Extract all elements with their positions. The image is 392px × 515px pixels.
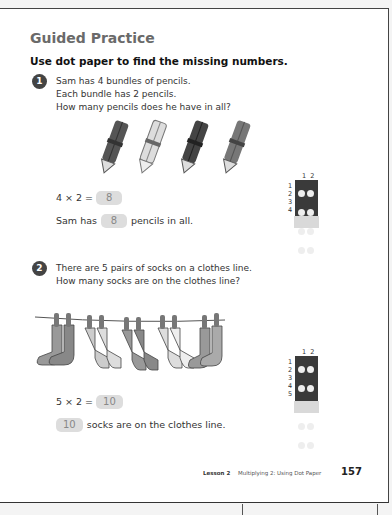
- equation-1: 4 × 2 =8: [56, 191, 125, 205]
- sentence-1: Sam has8pencils in all.: [56, 214, 193, 228]
- torn-paper-edge: [294, 216, 319, 228]
- sentence-text: pencils in all.: [131, 215, 193, 226]
- sentence-text: socks are on the clothes line.: [87, 419, 226, 430]
- page-edge-line: [377, 504, 378, 515]
- sentence-2: 10socks are on the clothes line.: [56, 418, 225, 432]
- answer-box[interactable]: 8: [96, 191, 122, 205]
- dot-paper-2: 1 2 12345: [288, 348, 318, 418]
- dot-paper-col-labels: 1 2: [302, 172, 314, 180]
- socks-clothesline-illustration: [30, 310, 230, 380]
- answer-box[interactable]: 10: [96, 395, 123, 409]
- question-line: How many socks are on the clothes line?: [56, 275, 252, 288]
- equation-text: 4 × 2 =: [56, 192, 93, 203]
- problem-1-question: Sam has 4 bundles of pencils. Each bundl…: [56, 75, 231, 114]
- sock-icon: [37, 325, 222, 370]
- dot-paper-col-labels: 1 2: [302, 348, 314, 356]
- question-line: How many pencils does he have in all?: [56, 101, 231, 114]
- problem-number-badge: 1: [32, 74, 47, 89]
- answer-box[interactable]: 8: [101, 214, 127, 228]
- question-line: Each bundle has 2 pencils.: [56, 88, 231, 101]
- equation-2: 5 × 2 =10: [56, 395, 126, 409]
- problem-number-badge: 2: [32, 261, 47, 276]
- dot-grid: [295, 180, 318, 216]
- torn-paper-edge: [294, 401, 319, 413]
- dot-paper-row-labels: 12345: [288, 358, 292, 398]
- pencil-bundles-illustration: [90, 118, 260, 178]
- clothespin-icon: [54, 313, 219, 331]
- section-title: Guided Practice: [30, 30, 155, 46]
- dot-paper-row-labels: 1234: [288, 182, 292, 214]
- clothesline: [35, 317, 225, 321]
- pencil-bundle-icon: [97, 119, 253, 175]
- dot-grid: [295, 356, 318, 401]
- question-line: There are 5 pairs of socks on a clothes …: [56, 262, 252, 275]
- sentence-text: Sam has: [56, 215, 97, 226]
- footer-lesson: Lesson 2: [203, 470, 230, 476]
- footer-lesson-title: Multiplying 2: Using Dot Paper: [238, 470, 321, 476]
- page-number: 157: [341, 466, 362, 477]
- question-line: Sam has 4 bundles of pencils.: [56, 75, 231, 88]
- instruction: Use dot paper to find the missing number…: [30, 55, 288, 67]
- equation-text: 5 × 2 =: [56, 396, 93, 407]
- problem-2-question: There are 5 pairs of socks on a clothes …: [56, 262, 252, 288]
- page-edge-line: [242, 504, 243, 515]
- answer-box[interactable]: 10: [56, 418, 83, 432]
- dot-paper-1: 1 2 1234: [288, 172, 318, 230]
